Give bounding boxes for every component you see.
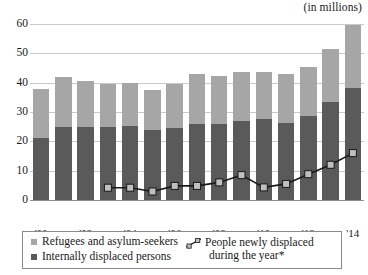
legend-line-entry: People newly displaced during the year* <box>186 236 314 262</box>
y-tick-label-0: 0 <box>2 194 28 206</box>
legend-label-newly-displaced-line1: People newly displaced <box>205 236 314 249</box>
chart-legend: Refugees and asylum-seekers Internally d… <box>22 231 342 269</box>
legend-item-idp: Internally displaced persons <box>31 250 178 263</box>
displacement-chart: (in millions) 0102030405060 '00'02'04'06… <box>0 0 368 275</box>
legend-swatch-idp-icon <box>31 254 37 260</box>
legend-label-refugees: Refugees and asylum-seekers <box>42 235 178 248</box>
y-tick-label-30: 30 <box>2 106 28 118</box>
legend-label-idp: Internally displaced persons <box>42 250 171 263</box>
legend-bar-entries: Refugees and asylum-seekers Internally d… <box>31 235 178 263</box>
gridline-0 <box>30 200 364 201</box>
legend-label-newly-displaced: People newly displaced during the year* <box>205 236 314 262</box>
y-tick-label-40: 40 <box>2 77 28 89</box>
y-tick-label-50: 50 <box>2 48 28 60</box>
units-annotation: (in millions) <box>304 1 362 13</box>
x-axis-ticks: '00'02'04'06'08'10'12'14 <box>30 24 364 200</box>
legend-item-refugees: Refugees and asylum-seekers <box>31 235 178 248</box>
y-tick-label-60: 60 <box>2 18 28 30</box>
legend-label-newly-displaced-line2: during the year* <box>205 249 314 262</box>
y-tick-label-20: 20 <box>2 136 28 148</box>
x-tick-label-14: '14 <box>346 227 359 239</box>
legend-swatch-refugees-icon <box>31 239 37 245</box>
y-tick-label-10: 10 <box>2 165 28 177</box>
line-series-icon <box>186 238 201 249</box>
